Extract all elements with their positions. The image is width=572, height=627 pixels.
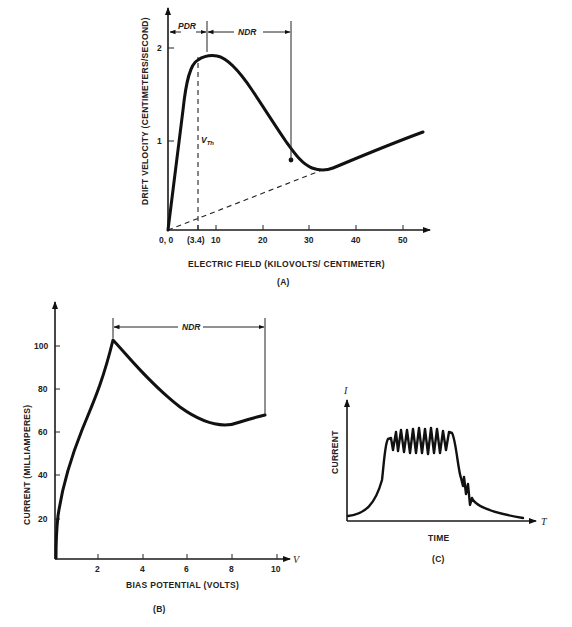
chart-a-xtick: (3.4): [187, 235, 205, 245]
chart-a-ytick: 2: [157, 43, 162, 53]
chart-a-xlabel: ELECTRIC FIELD (KILOVOLTS/ CENTIMETER): [188, 259, 385, 269]
chart-b-xtick: 8: [229, 564, 234, 574]
chart-c-caption: (C): [432, 554, 445, 564]
chart-c-ylabel: CURRENT: [330, 430, 340, 474]
chart-c-xlabel: TIME: [428, 533, 450, 543]
chart-b-ylabel: CURRENT (MILLIAMPERES): [22, 405, 32, 525]
chart-b-xtick: 4: [140, 564, 145, 574]
chart-a-pdr-label: PDR: [178, 21, 197, 31]
chart-a-xtick: 0, 0: [159, 235, 173, 245]
chart-b-caption: (B): [153, 604, 166, 614]
chart-c-curve: [348, 428, 523, 518]
chart-c: I T TIME CURRENT (C): [330, 385, 548, 564]
chart-a-ytick: 1: [157, 136, 162, 146]
chart-b-ytick: 60: [38, 427, 48, 437]
chart-a-xtick: 10: [211, 235, 221, 245]
chart-b-xtick: 2: [95, 564, 100, 574]
chart-a-ndr-label: NDR: [238, 27, 257, 37]
chart-b: V 20 40 60 80 100 2 4 6 8 10 BIAS POTENT…: [22, 302, 301, 614]
chart-b-x-symbol: V: [293, 554, 301, 565]
chart-a-reference-line: [168, 169, 325, 230]
figure-canvas: 1 2 0, 0 (3.4) 10 20 30 40 50 ELECTRIC F…: [0, 0, 572, 627]
chart-a-xtick: 40: [351, 235, 361, 245]
chart-a-xtick: 50: [398, 235, 408, 245]
chart-b-ytick: 100: [34, 341, 48, 351]
chart-a: 1 2 0, 0 (3.4) 10 20 30 40 50 ELECTRIC F…: [140, 8, 430, 287]
chart-a-vth-label: VTh: [201, 135, 214, 146]
chart-c-y-symbol: I: [343, 385, 348, 396]
chart-b-ytick: 40: [38, 470, 48, 480]
chart-b-xtick: 6: [184, 564, 189, 574]
chart-a-xtick: 20: [258, 235, 268, 245]
chart-b-ytick: 20: [38, 514, 48, 524]
chart-a-caption: (A): [277, 277, 290, 287]
chart-b-xlabel: BIAS POTENTIAL (VOLTS): [126, 580, 239, 590]
chart-b-curve: [56, 340, 265, 558]
chart-b-ndr-label: NDR: [182, 322, 201, 332]
chart-c-x-symbol: T: [541, 516, 548, 527]
chart-b-ytick: 80: [38, 384, 48, 394]
chart-b-xtick: 10: [271, 564, 281, 574]
chart-a-ylabel: DRIFT VELOCITY (CENTIMETERS/SECOND): [140, 17, 150, 205]
chart-a-xtick: 30: [304, 235, 314, 245]
